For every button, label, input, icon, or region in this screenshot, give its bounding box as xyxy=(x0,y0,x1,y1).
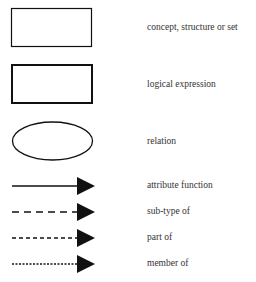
relation-ellipse-symbol xyxy=(13,122,93,160)
concept-label: concept, structure or set xyxy=(147,21,238,33)
attribute-function-label: attribute function xyxy=(147,179,213,191)
member-of-label: member of xyxy=(147,257,188,269)
logical-expression-rectangle-symbol xyxy=(12,65,92,103)
part-of-arrow-icon xyxy=(12,229,95,247)
concept-rectangle-symbol xyxy=(12,9,92,47)
part-of-label: part of xyxy=(147,231,172,243)
legend-diagram xyxy=(0,0,256,282)
logical-expression-label: logical expression xyxy=(147,78,216,90)
relation-label: relation xyxy=(147,135,176,147)
sub-type-label: sub-type of xyxy=(147,205,190,217)
member-of-arrow-icon xyxy=(12,255,95,273)
attribute-function-arrow-icon xyxy=(12,177,95,195)
sub-type-arrow-icon xyxy=(12,203,95,221)
